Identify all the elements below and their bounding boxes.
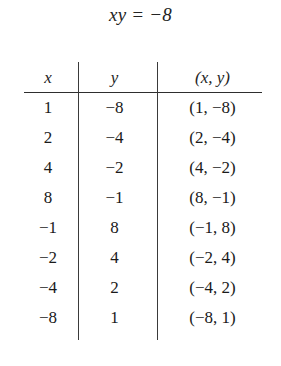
table-row: 1 −8 (1, −8): [24, 92, 262, 122]
cell-x: 8: [24, 189, 78, 206]
cell-y: −8: [78, 99, 157, 116]
cell-y: −1: [78, 189, 157, 206]
cell-pair: (8, −1): [157, 189, 262, 206]
table-row: −8 1 (−8, 1): [24, 302, 262, 332]
cell-pair: (1, −8): [157, 99, 262, 116]
cell-y: 4: [78, 249, 157, 266]
cell-x: −2: [24, 249, 78, 266]
equation-title: xy = −8: [0, 4, 281, 26]
table-row: −1 8 (−1, 8): [24, 212, 262, 242]
cell-x: −8: [24, 309, 78, 326]
cell-y: 1: [78, 309, 157, 326]
cell-pair: (−1, 8): [157, 219, 262, 236]
document-page: { "title": { "equation": "xy = \u22128" …: [0, 0, 281, 366]
cell-pair: (2, −4): [157, 129, 262, 146]
cell-y: 2: [78, 279, 157, 296]
cell-x: 2: [24, 129, 78, 146]
cell-pair: (−4, 2): [157, 279, 262, 296]
cell-y: −2: [78, 159, 157, 176]
table-row: 8 −1 (8, −1): [24, 182, 262, 212]
table-header-row: x y (x, y): [24, 62, 262, 92]
cell-x: 4: [24, 159, 78, 176]
table-row: −2 4 (−2, 4): [24, 242, 262, 272]
table-row: 2 −4 (2, −4): [24, 122, 262, 152]
column-header-x: x: [24, 69, 78, 86]
cell-x: −1: [24, 219, 78, 236]
cell-y: 8: [78, 219, 157, 236]
cell-y: −4: [78, 129, 157, 146]
column-header-pair: (x, y): [157, 69, 262, 86]
cell-x: 1: [24, 99, 78, 116]
table-grid: x y (x, y) 1 −8 (1, −8) 2 −4 (2, −4) 4 −…: [24, 62, 262, 332]
table-row: −4 2 (−4, 2): [24, 272, 262, 302]
cell-pair: (4, −2): [157, 159, 262, 176]
cell-x: −4: [24, 279, 78, 296]
value-table: x y (x, y) 1 −8 (1, −8) 2 −4 (2, −4) 4 −…: [24, 62, 262, 342]
column-header-y: y: [78, 69, 157, 86]
cell-pair: (−8, 1): [157, 309, 262, 326]
cell-pair: (−2, 4): [157, 249, 262, 266]
table-row: 4 −2 (4, −2): [24, 152, 262, 182]
